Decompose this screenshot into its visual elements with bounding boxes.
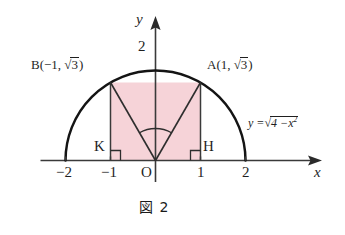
equation-lhs: y = <box>248 116 264 130</box>
point-label-h: H <box>203 139 214 154</box>
point-label-b-radicand: 3 <box>70 57 79 71</box>
equation-leader-line <box>240 118 247 121</box>
equation-radicand: 4 −x2 <box>270 116 298 129</box>
y-tick-label-2: 2 <box>138 39 146 54</box>
equation-radicand-exponent: 2 <box>293 115 297 124</box>
point-label-b-suffix: ) <box>79 57 83 72</box>
point-label-k: K <box>94 139 105 154</box>
point-label-a: A(1, √3) <box>207 57 253 71</box>
y-axis-label: y <box>136 12 143 27</box>
x-axis-label: x <box>314 165 321 180</box>
x-tick-label-pos1: 1 <box>197 165 205 180</box>
x-tick-label-neg2: −2 <box>56 165 72 180</box>
equation-radicand-lead: 4 − <box>271 116 288 130</box>
point-label-b: B(−1, √3) <box>31 57 83 71</box>
x-tick-label-neg1: −1 <box>101 165 117 180</box>
curve-equation-label: y =√4 −x2 <box>248 116 298 129</box>
point-label-a-radicand: 3 <box>240 57 249 71</box>
point-label-b-prefix: B(−1, <box>31 57 61 72</box>
figure-caption: 図 2 <box>139 196 169 216</box>
point-label-a-radical-group: √3 <box>230 57 248 71</box>
point-label-a-prefix: A(1, <box>207 57 230 72</box>
origin-label: O <box>141 165 152 180</box>
x-tick-label-pos2: 2 <box>242 165 250 180</box>
figure-2-diagram: y x 2 −2 −1 1 2 O B(−1, √3) A(1, √3) K H… <box>0 0 345 235</box>
point-label-b-radical-group: √3 <box>61 57 79 71</box>
point-label-a-suffix: ) <box>248 57 252 72</box>
equation-radical-group: √4 −x2 <box>264 116 298 129</box>
